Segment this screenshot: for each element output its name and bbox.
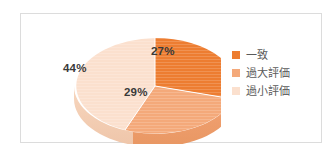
legend-item-underestimate[interactable]: 過小評価: [232, 82, 320, 100]
legend-label-match: 一致: [246, 50, 268, 61]
pie-chart: 27% 29% 44%: [21, 14, 221, 144]
pie-label-underestimate: 44%: [63, 62, 87, 74]
legend-swatch-match: [232, 51, 240, 59]
pie-chart-svg: [21, 14, 221, 144]
legend-swatch-underestimate: [232, 87, 240, 95]
pie-label-overestimate: 29%: [124, 86, 148, 98]
pie-label-match: 27%: [151, 45, 175, 57]
legend-label-overestimate: 過大評価: [246, 68, 290, 79]
legend-item-match[interactable]: 一致: [232, 46, 320, 64]
chart-legend: 一致 過大評価 過小評価: [232, 46, 320, 100]
legend-swatch-overestimate: [232, 69, 240, 77]
legend-label-underestimate: 過小評価: [246, 86, 290, 97]
legend-item-overestimate[interactable]: 過大評価: [232, 64, 320, 82]
chart-card: 27% 29% 44% 一致 過大評価 過小評価: [20, 13, 322, 143]
